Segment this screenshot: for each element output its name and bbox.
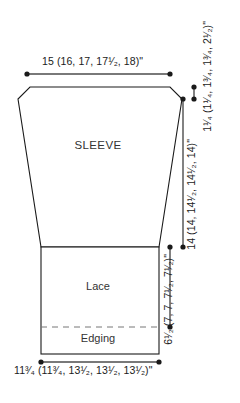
top-width-label: 15 (16, 17, 17¹⁄₂, 18)"	[42, 56, 143, 68]
sleeve-length-label: 14 (14, 14¹⁄₂, 14¹⁄₂, 14)"	[186, 139, 198, 250]
sleeve-length-dot-top	[180, 96, 185, 101]
lace-height-dot-top	[167, 244, 172, 249]
cap-height-label: 1¹⁄₄ (1¹⁄₄, 1³⁄₄, 1³⁄₄, 2¹⁄₂)"	[202, 21, 214, 132]
sleeve-schematic-diagram: 15 (16, 17, 17¹⁄₂, 18)" 11³⁄₄ (11³⁄₄, 13…	[0, 0, 240, 403]
bottom-width-dot-right	[156, 359, 161, 364]
cap-height-dot-top	[191, 84, 196, 89]
edging-panel-label: Edging	[0, 332, 196, 344]
top-width-dot-left	[24, 71, 29, 76]
sleeve-panel-label: SLEEVE	[0, 139, 196, 151]
lace-panel-label: Lace	[0, 280, 196, 292]
bottom-width-label: 11³⁄₄ (11³⁄₄, 13¹⁄₂, 13¹⁄₂, 13¹⁄₂)"	[14, 365, 153, 377]
sleeve-outline-shape	[18, 87, 182, 247]
cap-height-dot-bottom	[191, 96, 196, 101]
top-width-dot-right	[167, 71, 172, 76]
